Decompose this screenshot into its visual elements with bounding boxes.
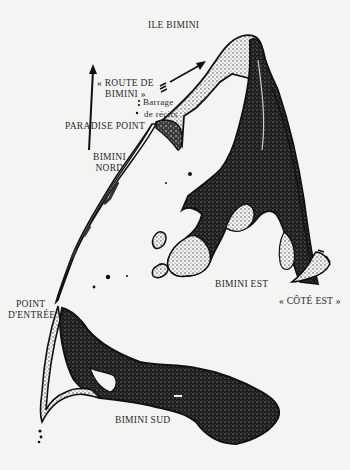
north-arrow-icon bbox=[89, 64, 97, 150]
paradise-point-label: PARADISE POINT bbox=[65, 121, 145, 132]
reef-barrier-label: Barrage de récifs bbox=[143, 97, 177, 120]
bimini-sud-label: BIMINI SUD bbox=[115, 415, 171, 426]
point-dentree-label: POINT D'ENTRÉE bbox=[8, 299, 55, 321]
entree-label-line1: POINT bbox=[8, 299, 55, 310]
route-label-line1: « ROUTE DE bbox=[97, 78, 154, 89]
bimini-nord-label: BIMINI NORD bbox=[93, 152, 126, 174]
entree-label-line2: D'ENTRÉE bbox=[8, 310, 55, 321]
bimini-est-label: BIMINI EST bbox=[215, 279, 268, 290]
cote-est-label: « CÔTÉ EST » bbox=[279, 296, 341, 307]
reef-label-line1: Barrage bbox=[143, 97, 177, 108]
reef-label-line2: de récifs bbox=[144, 109, 177, 120]
nord-label-line1: BIMINI bbox=[93, 152, 126, 163]
bimini-map bbox=[0, 0, 350, 470]
nord-label-line2: NORD bbox=[93, 163, 126, 174]
reef-dots bbox=[136, 100, 140, 114]
map-title: ILE BIMINI bbox=[148, 20, 199, 31]
